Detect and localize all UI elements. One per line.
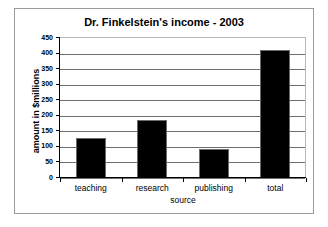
y-axis-tick [56, 68, 59, 69]
chart-title: Dr. Finkelstein's income - 2003 [15, 16, 313, 28]
y-axis-tick-label: 450 [29, 34, 53, 41]
bar [260, 50, 290, 178]
y-axis-line [59, 37, 60, 178]
bar [199, 149, 229, 178]
x-axis-tick [122, 178, 123, 182]
x-axis-tick [306, 178, 307, 182]
x-axis-category-label: teaching [60, 183, 122, 193]
y-axis-tick-label: 400 [29, 49, 53, 56]
y-axis-tick [56, 37, 59, 38]
y-axis-tick-label: 250 [29, 96, 53, 103]
y-axis-tick-label: 200 [29, 111, 53, 118]
y-axis-tick [56, 84, 59, 85]
y-axis-tick [56, 53, 59, 54]
y-axis-tick-label: 300 [29, 80, 53, 87]
chart-frame: Dr. Finkelstein's income - 2003 amount i… [14, 8, 314, 214]
y-axis-tick-label: 50 [29, 158, 53, 165]
y-axis-tick [56, 177, 59, 178]
y-axis-tick [56, 130, 59, 131]
y-axis-tick [56, 99, 59, 100]
y-axis-tick-label: 350 [29, 65, 53, 72]
y-axis-tick-labels: 050100150200250300350400450 [27, 9, 53, 215]
bar [137, 120, 167, 178]
y-axis-tick [56, 115, 59, 116]
bar [76, 138, 106, 178]
x-axis-tick [245, 178, 246, 182]
y-axis-tick-label: 100 [29, 142, 53, 149]
y-axis-tick [56, 161, 59, 162]
x-axis-tick [183, 178, 184, 182]
y-axis-tick [56, 146, 59, 147]
x-axis-tick [60, 178, 61, 182]
x-axis-category-label: research [122, 183, 184, 193]
x-axis-title: source [60, 195, 306, 205]
x-axis-category-label: total [245, 183, 307, 193]
plot-area [60, 37, 306, 177]
x-axis-category-label: publishing [183, 183, 245, 193]
y-axis-tick-label: 150 [29, 127, 53, 134]
y-axis-tick-label: 0 [29, 174, 53, 181]
